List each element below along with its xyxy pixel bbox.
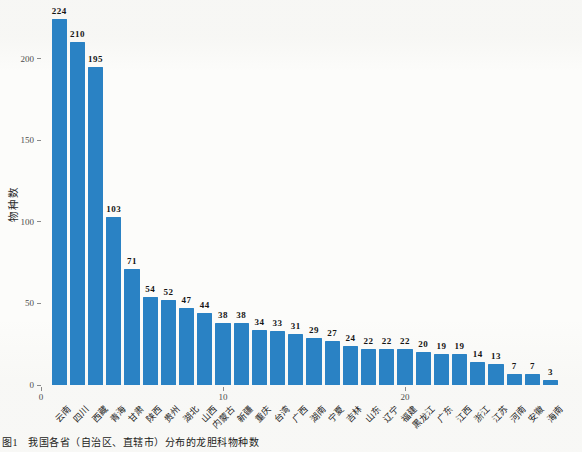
bar-山东 (361, 349, 376, 385)
y-axis-tick-mark (37, 58, 41, 59)
bar-value-label: 22 (400, 336, 410, 346)
y-axis-tick-label: 200 (8, 54, 34, 64)
bar-value-label: 195 (88, 54, 103, 64)
bar-value-label: 31 (291, 321, 301, 331)
bar-台湾 (270, 331, 285, 385)
bar-青海 (106, 217, 121, 385)
bar-甘肃 (124, 269, 139, 385)
y-axis-tick-label: 0 (8, 380, 34, 390)
bar-江西 (452, 354, 467, 385)
bar-辽宁 (379, 349, 394, 385)
x-axis-tick-label: 10 (219, 392, 228, 402)
bar-value-label: 54 (145, 284, 155, 294)
bar-value-label: 22 (364, 336, 374, 346)
bar-chart-plot-area: 物种数 05010015020001020224云南210四川195西藏103青… (0, 0, 582, 452)
bar-海南 (543, 380, 558, 385)
bar-黑龙江 (416, 352, 431, 385)
bar-value-label: 44 (200, 300, 210, 310)
y-axis-tick-mark (37, 303, 41, 304)
y-axis-tick-mark (37, 385, 41, 386)
x-category-label-海南: 海南 (543, 402, 566, 425)
bar-新疆 (234, 323, 249, 385)
bar-value-label: 20 (418, 339, 428, 349)
bar-value-label: 34 (254, 317, 264, 327)
bar-广西 (288, 334, 303, 385)
x-axis-tick-label: 0 (39, 392, 44, 402)
bar-value-label: 52 (163, 287, 173, 297)
bar-陕西 (143, 297, 158, 385)
bar-value-label: 27 (327, 328, 337, 338)
bar-value-label: 103 (106, 204, 121, 214)
bar-河南 (507, 374, 522, 385)
bar-value-label: 7 (512, 361, 517, 371)
y-axis-tick-label: 150 (8, 135, 34, 145)
bar-宁夏 (325, 341, 340, 385)
y-axis-title: 物种数 (5, 164, 20, 244)
bar-安徽 (525, 374, 540, 385)
bar-内蒙古 (215, 323, 230, 385)
bar-value-label: 38 (236, 310, 246, 320)
y-axis-tick-label: 50 (8, 298, 34, 308)
y-axis-tick-mark (37, 221, 41, 222)
bar-value-label: 224 (52, 6, 67, 16)
bar-value-label: 210 (70, 29, 85, 39)
figure-caption-number: 图1 (2, 437, 18, 448)
bar-value-label: 29 (309, 325, 319, 335)
bar-西藏 (88, 67, 103, 385)
bar-value-label: 13 (491, 351, 501, 361)
figure-gentianaceae-species-bar-chart: 物种数 05010015020001020224云南210四川195西藏103青… (0, 0, 582, 452)
bar-云南 (52, 19, 67, 385)
figure-caption: 图1我国各省（自治区、直辖市）分布的龙胆科物种数 (2, 434, 259, 449)
bar-山西 (197, 313, 212, 385)
bar-value-label: 14 (473, 349, 483, 359)
bar-value-label: 19 (455, 341, 465, 351)
bar-value-label: 22 (382, 336, 392, 346)
bar-四川 (70, 42, 85, 385)
bar-贵州 (161, 300, 176, 385)
bar-value-label: 7 (530, 361, 535, 371)
bar-江苏 (488, 364, 503, 385)
bar-吉林 (343, 346, 358, 385)
bar-湖北 (179, 308, 194, 385)
bar-value-label: 38 (218, 310, 228, 320)
bar-value-label: 71 (127, 256, 137, 266)
x-axis-tick-label: 20 (401, 392, 410, 402)
bar-value-label: 33 (273, 318, 283, 328)
bar-value-label: 3 (548, 367, 553, 377)
figure-caption-text: 我国各省（自治区、直辖市）分布的龙胆科物种数 (28, 437, 259, 448)
x-axis-tick-mark (223, 387, 224, 391)
y-axis-tick-label: 100 (8, 217, 34, 227)
x-axis-tick-mark (41, 387, 42, 391)
bar-value-label: 19 (436, 341, 446, 351)
bar-浙江 (470, 362, 485, 385)
y-axis-tick-mark (37, 140, 41, 141)
x-axis-tick-mark (405, 387, 406, 391)
bar-重庆 (252, 330, 267, 385)
bar-value-label: 24 (345, 333, 355, 343)
bar-湖南 (306, 338, 321, 385)
bar-福建 (397, 349, 412, 385)
bar-value-label: 47 (182, 295, 192, 305)
bar-广东 (434, 354, 449, 385)
